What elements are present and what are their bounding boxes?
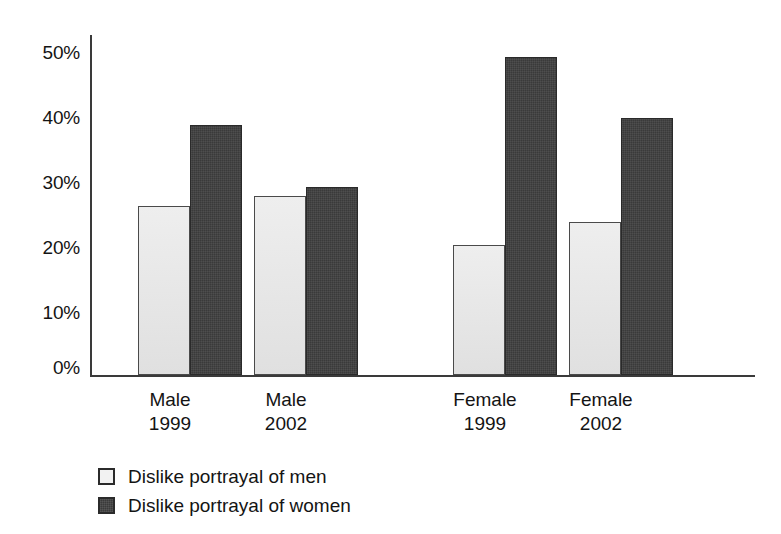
dark-square-icon: [98, 497, 115, 514]
bar-female-1999-men: [453, 245, 505, 375]
x-label-year: 1999: [433, 412, 537, 436]
legend-item-men: Dislike portrayal of men: [98, 462, 351, 491]
bar-female-2002-women: [621, 118, 673, 375]
x-axis-line: [90, 375, 755, 377]
bar-male-2002-men: [254, 196, 306, 375]
y-tick-label-50: 50%: [16, 43, 80, 62]
x-label-year: 2002: [549, 412, 653, 436]
y-tick-label-10: 10%: [16, 303, 80, 322]
plot-area: [90, 35, 755, 377]
bar-female-1999-women: [505, 57, 557, 376]
x-label-female-2002: Female 2002: [549, 388, 653, 436]
x-label-male-2002: Male 2002: [234, 388, 338, 436]
chart-legend: Dislike portrayal of men Dislike portray…: [98, 462, 351, 520]
bar-male-2002-women: [306, 187, 358, 376]
y-tick-label-20: 20%: [16, 238, 80, 257]
legend-item-women: Dislike portrayal of women: [98, 491, 351, 520]
legend-label-women: Dislike portrayal of women: [128, 496, 351, 515]
y-tick-label-30: 30%: [16, 173, 80, 192]
light-square-icon: [98, 468, 115, 485]
x-label-category: Female: [549, 388, 653, 412]
y-tick-label-40: 40%: [16, 108, 80, 127]
x-label-category: Male: [118, 388, 222, 412]
y-axis-line: [90, 35, 92, 377]
x-label-category: Female: [433, 388, 537, 412]
bar-male-1999-men: [138, 206, 190, 375]
x-label-male-1999: Male 1999: [118, 388, 222, 436]
y-tick-label-0: 0%: [16, 358, 80, 377]
x-label-year: 2002: [234, 412, 338, 436]
legend-label-men: Dislike portrayal of men: [128, 467, 327, 486]
bar-female-2002-men: [569, 222, 621, 375]
bar-male-1999-women: [190, 125, 242, 375]
x-label-year: 1999: [118, 412, 222, 436]
x-label-female-1999: Female 1999: [433, 388, 537, 436]
bar-chart: 50% 40% 30% 20% 10% 0% Male 1999 Male 20…: [0, 0, 781, 534]
x-label-category: Male: [234, 388, 338, 412]
